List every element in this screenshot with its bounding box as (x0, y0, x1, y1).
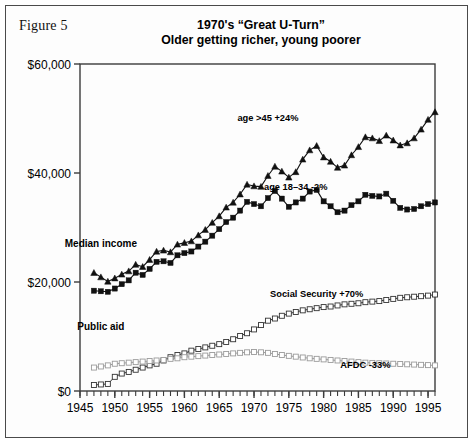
series-marker-open-square (356, 301, 361, 306)
series-marker-open-square (140, 365, 145, 370)
series-marker-open-square (245, 331, 250, 336)
series-marker-triangle (362, 134, 368, 140)
series-marker-open-square (377, 299, 382, 304)
series-marker-open-square (286, 353, 291, 358)
x-axis-tick-label: 1965 (206, 401, 233, 415)
series-marker-open-square (189, 348, 194, 353)
series-marker-open-square (265, 318, 270, 323)
series-marker-open-square (314, 306, 319, 311)
chart-plot-area: $0$20,000$40,000$60,00019451950195519601… (6, 6, 469, 439)
series-marker-open-square (293, 354, 298, 359)
series-marker-open-square (398, 295, 403, 300)
series-marker-open-square (265, 350, 270, 355)
series-marker-square (189, 249, 194, 254)
series-marker-square (328, 204, 333, 209)
series-marker-open-square (119, 371, 124, 376)
series-marker-square (154, 259, 159, 264)
series-marker-square (175, 253, 180, 258)
series-marker-triangle (223, 204, 229, 210)
series-marker-square (203, 239, 208, 244)
series-marker-open-square (105, 363, 110, 368)
series-marker-triangle (293, 169, 299, 175)
series-marker-open-square (419, 294, 424, 299)
series-marker-square (377, 194, 382, 199)
series-marker-open-square (384, 297, 389, 302)
annotation-afdc: AFDC -33% (340, 360, 391, 370)
series-marker-open-square (252, 327, 257, 332)
series-marker-square (210, 233, 215, 238)
x-axis-tick-label: 1995 (415, 401, 442, 415)
series-marker-square (418, 204, 423, 209)
series-marker-open-square (412, 362, 417, 367)
series-marker-open-square (405, 362, 410, 367)
series-marker-open-square (335, 303, 340, 308)
annotation-age-over-45: age >45 +24% (237, 113, 299, 123)
series-marker-open-square (272, 316, 277, 321)
series-marker-square (286, 204, 291, 209)
series-marker-open-square (154, 358, 159, 363)
series-marker-square (133, 270, 138, 275)
series-marker-square (251, 201, 256, 206)
series-marker-open-square (349, 301, 354, 306)
series-marker-open-square (335, 358, 340, 363)
series-marker-open-square (426, 363, 431, 368)
x-axis-tick-label: 1945 (67, 401, 94, 415)
series-marker-open-square (258, 350, 263, 355)
series-marker-square (238, 208, 243, 213)
series-marker-open-square (328, 304, 333, 309)
series-marker-open-square (217, 342, 222, 347)
x-axis-tick-label: 1990 (380, 401, 407, 415)
series-marker-open-square (126, 360, 131, 365)
y-axis-tick-label: $20,000 (28, 276, 72, 290)
x-axis-tick-label: 1980 (310, 401, 337, 415)
series-marker-square (126, 278, 131, 283)
series-marker-open-square (140, 359, 145, 364)
series-marker-open-square (231, 351, 236, 356)
series-marker-triangle (404, 140, 410, 146)
annotation-social-security: Social Security +70% (270, 289, 364, 299)
series-marker-open-square (210, 343, 215, 348)
series-marker-square (279, 196, 284, 201)
series-marker-open-square (370, 299, 375, 304)
series-marker-open-square (363, 300, 368, 305)
series-marker-square (342, 208, 347, 213)
series-marker-square (168, 260, 173, 265)
series-marker-square (412, 206, 417, 211)
series-marker-open-square (147, 359, 152, 364)
series-line-2 (94, 295, 435, 385)
series-marker-square (370, 193, 375, 198)
x-axis-tick-label: 1985 (345, 401, 372, 415)
series-marker-triangle (98, 274, 104, 280)
series-marker-triangle (390, 137, 396, 143)
series-marker-open-square (252, 350, 257, 355)
x-axis-tick-label: 1955 (136, 401, 163, 415)
series-marker-triangle (112, 275, 118, 281)
series-marker-triangle (341, 162, 347, 168)
series-marker-square (231, 215, 236, 220)
y-axis-tick-label: $60,000 (28, 58, 72, 72)
series-marker-open-square (293, 309, 298, 314)
series-marker-open-square (112, 361, 117, 366)
series-marker-square (217, 227, 222, 232)
series-marker-triangle (119, 271, 125, 277)
series-marker-square (405, 207, 410, 212)
series-marker-open-square (433, 363, 438, 368)
series-marker-open-square (342, 302, 347, 307)
annotation-public-aid: Public aid (77, 321, 124, 332)
series-marker-open-square (210, 353, 215, 358)
series-marker-open-square (412, 294, 417, 299)
series-marker-open-square (307, 356, 312, 361)
series-marker-square (265, 195, 270, 200)
series-marker-square (182, 251, 187, 256)
series-marker-square (98, 289, 103, 294)
series-marker-open-square (307, 307, 312, 312)
series-marker-open-square (398, 362, 403, 367)
series-marker-triangle (327, 158, 333, 164)
series-marker-open-square (238, 333, 243, 338)
series-marker-open-square (112, 374, 117, 379)
y-axis-tick-label: $0 (58, 385, 72, 399)
series-marker-open-square (426, 293, 431, 298)
series-marker-open-square (126, 369, 131, 374)
series-marker-square (391, 198, 396, 203)
series-marker-open-square (119, 361, 124, 366)
